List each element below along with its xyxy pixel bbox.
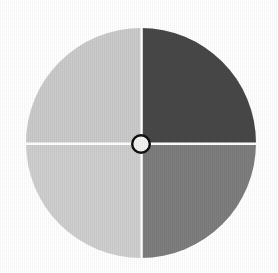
center-hub-group[interactable] <box>132 135 150 153</box>
pie-chart-canvas <box>0 0 278 273</box>
center-hub-fill <box>134 137 148 151</box>
pie-chart-figure <box>0 0 278 273</box>
